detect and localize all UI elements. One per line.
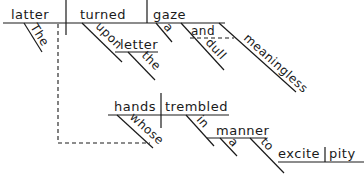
main-clause: latter turned gaze The upon letter the a… — [3, 0, 311, 96]
relative-verb-word: trembled — [165, 99, 228, 114]
relative-prep-object-word: manner — [216, 123, 270, 138]
object-modifier-a-word: a — [161, 20, 177, 35]
sentence-diagram: latter turned gaze The upon letter the a… — [0, 0, 364, 180]
relative-clause: hands trembled whose in manner a to exci… — [108, 93, 364, 173]
object-modifier-meaningless-word: meaningless — [241, 31, 311, 96]
subject-word: latter — [11, 7, 49, 22]
object-word: gaze — [153, 7, 186, 22]
object-modifier-meaningless-slant — [219, 23, 296, 92]
infinitive-object-word: pity — [329, 146, 356, 161]
object-modifier-dull-word: dull — [203, 35, 230, 62]
infinitive-verb-word: excite — [278, 146, 320, 161]
prep-object-word: letter — [120, 37, 158, 52]
